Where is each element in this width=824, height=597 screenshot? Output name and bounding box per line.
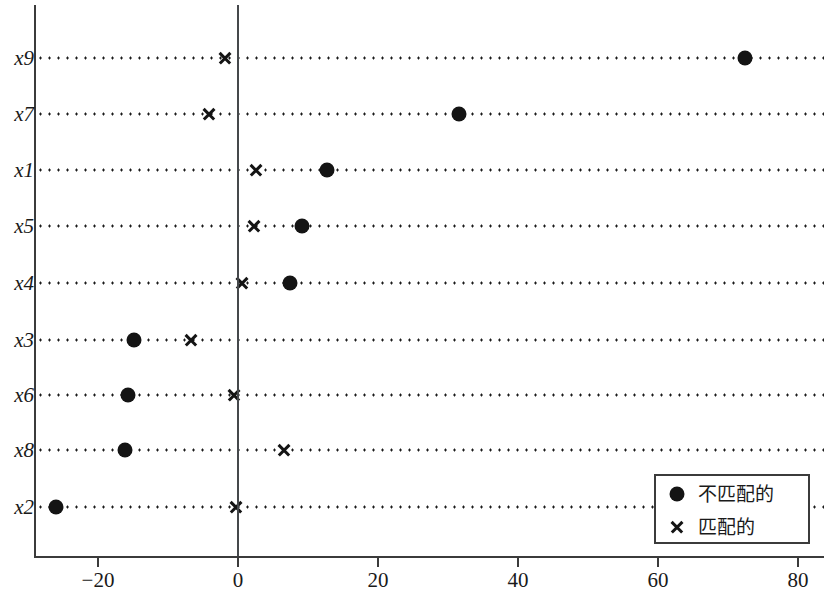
row-gridline [36,394,824,397]
data-point-unmatched [452,107,467,122]
x-axis-tick [657,558,659,567]
y-axis-tick-label: x4 [14,272,34,294]
standardized-difference-dot-plot: −20020406080 x9x7x1x5x4x3x6x8x2 不匹配的 匹配的 [0,0,824,597]
legend-entry-unmatched: 不匹配的 [656,476,808,511]
filled-circle-marker-icon [656,476,698,511]
data-point-matched [247,219,261,233]
x-axis-tick [517,558,519,567]
x-axis-tick [377,558,379,567]
row-gridline [36,449,824,452]
y-axis-tick-label: x1 [14,159,34,181]
row-gridline [36,225,824,228]
x-axis-tick-label: 80 [788,568,809,592]
data-point-unmatched [294,219,309,234]
y-axis-tick-label: x2 [14,496,34,518]
legend-entry-label: 匹配的 [698,516,755,538]
y-axis-tick-label: x8 [14,439,34,461]
x-axis-tick-label: 40 [508,568,529,592]
row-gridline [36,282,824,285]
row-gridline [36,339,824,342]
x-axis-tick [97,558,99,567]
data-point-unmatched [49,500,64,515]
y-axis-line [34,5,36,558]
x-axis-line [34,556,824,558]
x-axis-tick-label: 0 [233,568,244,592]
legend: 不匹配的 匹配的 [654,474,810,544]
data-point-matched [229,500,243,514]
y-axis-tick-label: x9 [14,47,34,69]
data-point-matched [202,107,216,121]
data-point-unmatched [282,276,297,291]
row-gridline [36,113,824,116]
row-gridline [36,57,824,60]
row-gridline [36,169,824,172]
y-axis-tick-label: x3 [14,329,34,351]
x-cross-marker-icon [656,509,698,544]
data-point-unmatched [121,388,136,403]
data-point-unmatched [319,163,334,178]
y-axis-tick-label: x7 [14,103,34,125]
x-axis-tick [797,558,799,567]
data-point-unmatched [737,51,752,66]
data-point-matched [184,333,198,347]
legend-entry-matched: 匹配的 [656,509,808,544]
data-point-unmatched [118,443,133,458]
data-point-matched [277,443,291,457]
x-axis-tick-label: −20 [82,568,115,592]
data-point-matched [218,51,232,65]
x-axis-tick-label: 60 [648,568,669,592]
legend-entry-label: 不匹配的 [698,483,774,505]
x-axis-tick-label: 20 [368,568,389,592]
x-axis-tick [237,558,239,567]
y-axis-tick-label: x6 [14,384,34,406]
data-point-unmatched [126,333,141,348]
y-axis-tick-label: x5 [14,215,34,237]
zero-reference-line [237,5,239,556]
data-point-matched [249,163,263,177]
